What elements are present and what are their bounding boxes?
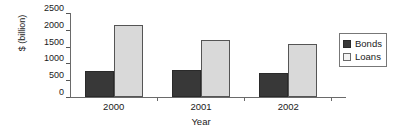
legend-label-loans: Loans [355, 52, 381, 62]
y-tick-label: 1000 [30, 54, 64, 63]
bar-loans-2001[interactable] [201, 40, 230, 97]
bar-group-2001 [157, 13, 244, 97]
legend-item-bonds[interactable]: Bonds [343, 37, 382, 50]
x-tick-label-2001: 2001 [157, 101, 244, 114]
bar-group-2002 [245, 13, 332, 97]
bar-bonds-2001[interactable] [172, 70, 201, 97]
legend-swatch-loans-icon [343, 53, 351, 61]
bar-loans-2000[interactable] [114, 25, 143, 97]
legend-label-bonds: Bonds [355, 39, 382, 49]
chart-legend: Bonds Loans [339, 33, 387, 67]
bar-bonds-2002[interactable] [259, 73, 288, 97]
x-axis-tick-labels: 2000 2001 2002 [70, 101, 332, 114]
y-tick-label: 0 [30, 88, 64, 97]
bar-bonds-2000[interactable] [85, 71, 114, 97]
bar-group-2000 [70, 13, 157, 97]
legend-swatch-bonds-icon [343, 40, 351, 48]
y-tick-label: 500 [30, 71, 64, 80]
bar-chart-figure: $ (billion) 2500 2000 1500 1000 500 0 [0, 0, 410, 134]
x-axis-line [70, 97, 346, 98]
x-tick-label-2000: 2000 [70, 101, 157, 114]
bar-groups [70, 13, 332, 97]
y-axis-title: $ (billion) [17, 0, 27, 81]
x-tick-label-2002: 2002 [245, 101, 332, 114]
y-axis-tick-labels: 2500 2000 1500 1000 500 0 [30, 8, 64, 100]
y-tick-label: 2000 [30, 20, 64, 29]
x-axis-title: Year [70, 116, 332, 127]
bar-loans-2002[interactable] [288, 44, 317, 97]
y-tick-label: 2500 [30, 4, 64, 13]
y-tick-label: 1500 [30, 37, 64, 46]
legend-item-loans[interactable]: Loans [343, 50, 382, 63]
